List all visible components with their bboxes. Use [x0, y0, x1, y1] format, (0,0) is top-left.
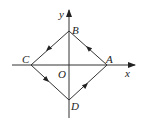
point-label-d: D	[70, 100, 79, 112]
point-label-b: B	[72, 24, 79, 36]
x-axis-label: x	[124, 67, 130, 79]
point-label-a: A	[105, 53, 113, 65]
origin-label: O	[58, 68, 66, 80]
coordinate-diagram: y x O A B C D	[0, 0, 146, 133]
point-label-c: C	[22, 53, 30, 65]
y-axis-label: y	[58, 8, 64, 20]
